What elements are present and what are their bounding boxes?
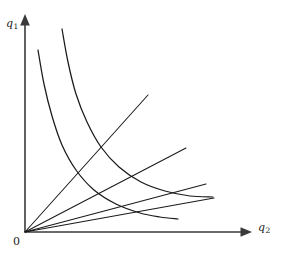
expansion-ray-1 bbox=[25, 95, 148, 232]
expansion-ray-4 bbox=[25, 198, 214, 232]
expansion-rays-group bbox=[25, 95, 214, 232]
x-axis-label: q2 bbox=[258, 222, 270, 233]
x-axis-label-base: q bbox=[258, 221, 265, 234]
origin-label: 0 bbox=[13, 236, 20, 247]
isoquant-figure: q1 q2 0 bbox=[0, 0, 282, 257]
y-axis-label-base: q bbox=[6, 17, 13, 30]
figure-canvas bbox=[0, 0, 282, 257]
isoquant-outer-curve bbox=[62, 29, 213, 197]
y-axis-label: q1 bbox=[6, 18, 18, 29]
x-axis-arrowhead bbox=[241, 227, 253, 237]
y-axis-label-subscript: 1 bbox=[14, 22, 19, 31]
y-axis-arrowhead bbox=[20, 14, 30, 26]
isoquants-group bbox=[38, 29, 213, 219]
x-axis-label-subscript: 2 bbox=[266, 226, 271, 235]
expansion-ray-3 bbox=[25, 184, 206, 232]
